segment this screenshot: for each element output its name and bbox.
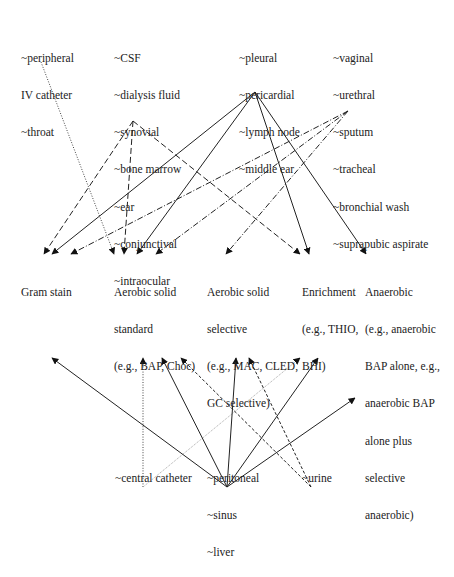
target-text: Aerobic solid <box>114 286 195 298</box>
target-text: anaerobic) <box>365 509 440 521</box>
target-text: (e.g., anaerobic <box>365 323 440 335</box>
source-csf-group: ~CSF ~dialysis fluid ~synovial ~bone mar… <box>114 27 181 300</box>
target-text: BHI) <box>302 360 358 372</box>
source-text: ~bronchial wash <box>333 201 428 213</box>
edge-vaginal-gram <box>71 111 348 254</box>
source-text: ~ear <box>114 201 181 213</box>
source-text: ~peritoneal <box>207 472 314 484</box>
target-anaerobic: Anaerobic (e.g., anaerobic BAP alone, e.… <box>365 261 440 534</box>
target-text: selective <box>365 472 440 484</box>
target-text: alone plus <box>365 435 440 447</box>
source-central-catheter: ~central catheter <box>115 447 192 497</box>
target-text: standard <box>114 323 195 335</box>
source-text: ~pleural <box>239 52 300 64</box>
target-text: anaerobic BAP <box>365 397 440 409</box>
source-text: ~CSF <box>114 52 181 64</box>
target-text: Aerobic solid <box>207 286 298 298</box>
source-text: ~tracheal <box>333 163 428 175</box>
source-text: ~lymph node <box>239 126 300 138</box>
target-text: (e.g., BAP, Choc) <box>114 360 195 372</box>
target-gram-stain: Gram stain <box>21 261 72 311</box>
target-text: Enrichment <box>302 286 358 298</box>
target-enrichment: Enrichment (e.g., THIO, BHI) <box>302 261 358 385</box>
source-text: ~synovial <box>114 126 181 138</box>
target-aerobic-standard: Aerobic solid standard (e.g., BAP, Choc) <box>114 261 195 385</box>
target-text: Gram stain <box>21 286 72 298</box>
source-urine: ~urine <box>302 447 332 497</box>
source-pleural-group: ~pleural ~pericardial ~lymph node ~middl… <box>239 27 300 188</box>
target-text: Anaerobic <box>365 286 440 298</box>
target-text: GC selective) <box>207 397 298 409</box>
source-text: ~pericardial <box>239 89 300 101</box>
source-text: ~sputum <box>333 126 428 138</box>
source-text: IV catheter <box>21 89 74 101</box>
source-peripheral: ~peripheral IV catheter ~throat <box>21 27 74 151</box>
source-vaginal-group: ~vaginal ~urethral ~sputum ~tracheal ~br… <box>333 27 428 263</box>
source-text: ~dialysis fluid <box>114 89 181 101</box>
source-peritoneal-group: ~peritoneal ~sinus ~liver ~lung tissue ~… <box>207 447 314 577</box>
source-text: ~middle ear <box>239 163 300 175</box>
source-text: ~sinus <box>207 509 314 521</box>
source-text: ~conjunctival <box>114 238 181 250</box>
source-text: ~liver <box>207 546 314 558</box>
source-text: ~central catheter <box>115 472 192 484</box>
target-aerobic-selective: Aerobic solid selective (e.g., MAC, CLED… <box>207 261 298 422</box>
source-text: ~throat <box>21 126 74 138</box>
target-text: selective <box>207 323 298 335</box>
target-text: (e.g., MAC, CLED, <box>207 360 298 372</box>
source-text: ~urine <box>302 472 332 484</box>
source-text: ~vaginal <box>333 52 428 64</box>
source-text: ~suprapubic aspirate <box>333 238 428 250</box>
source-text: ~urethral <box>333 89 428 101</box>
source-text: ~peripheral <box>21 52 74 64</box>
source-text: ~bone marrow <box>114 163 181 175</box>
target-text: BAP alone, e.g., <box>365 360 440 372</box>
target-text: (e.g., THIO, <box>302 323 358 335</box>
